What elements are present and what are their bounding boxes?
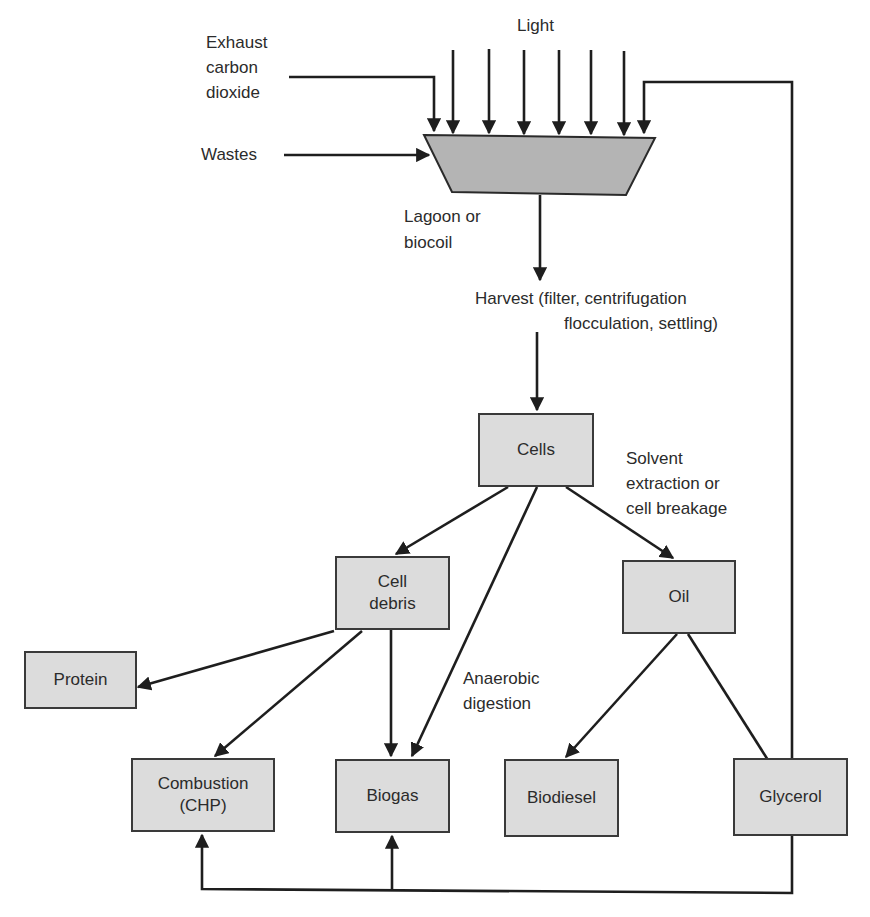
exhaust-label-line1: Exhaust [206, 30, 267, 55]
cells-to-debris-arrow [396, 487, 508, 554]
exhaust-label-line3: dioxide [206, 80, 267, 105]
node-cell-debris: Cell debris [335, 556, 450, 630]
node-glycerol: Glycerol [733, 758, 848, 836]
node-protein: Protein [24, 651, 137, 709]
exhaust-label: Exhaust carbon dioxide [206, 30, 267, 105]
node-oil: Oil [622, 560, 736, 634]
solvent-label-line3: cell breakage [626, 496, 727, 521]
node-combustion-line1: Combustion [158, 773, 249, 795]
anaerobic-label-line1: Anaerobic [463, 666, 540, 691]
oil-to-biodiesel-arrow [566, 634, 677, 757]
node-glycerol-label: Glycerol [759, 786, 821, 808]
glycerol-to-combustion-arrow [202, 835, 792, 893]
node-biodiesel: Biodiesel [504, 759, 619, 837]
glycerol-recycle-arrow [644, 82, 792, 758]
reactor-label: Lagoon or biocoil [404, 204, 481, 256]
node-combustion: Combustion (CHP) [131, 758, 275, 832]
wastes-label: Wastes [201, 143, 257, 166]
node-combustion-line2: (CHP) [158, 795, 249, 817]
exhaust-label-line2: carbon [206, 55, 267, 80]
harvest-label-line1: Harvest (filter, centrifugation [475, 287, 687, 310]
solvent-extraction-label: Solvent extraction or cell breakage [626, 446, 727, 521]
node-cells-label: Cells [517, 439, 555, 461]
lagoon-reactor [424, 135, 655, 195]
reactor-label-line1: Lagoon or [404, 204, 481, 230]
node-cells: Cells [478, 413, 594, 487]
node-biogas-label: Biogas [367, 785, 419, 807]
debris-to-combustion-arrow [215, 631, 362, 756]
node-biogas: Biogas [335, 759, 450, 833]
reactor-label-line2: biocoil [404, 230, 481, 256]
node-protein-label: Protein [54, 669, 108, 691]
node-biodiesel-label: Biodiesel [527, 787, 596, 809]
node-cell-debris-line2: debris [369, 593, 415, 615]
node-cell-debris-line1: Cell [369, 571, 415, 593]
harvest-label-line2: flocculation, settling) [564, 312, 718, 335]
solvent-label-line2: extraction or [626, 471, 727, 496]
anaerobic-label-line2: digestion [463, 691, 540, 716]
light-label: Light [517, 14, 554, 37]
exhaust-arrow [289, 77, 434, 131]
solvent-label-line1: Solvent [626, 446, 727, 471]
node-oil-label: Oil [669, 586, 690, 608]
anaerobic-digestion-label: Anaerobic digestion [463, 666, 540, 716]
